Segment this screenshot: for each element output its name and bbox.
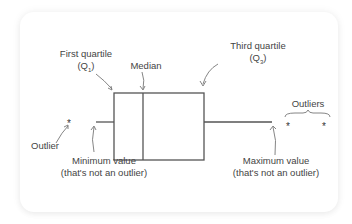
outliers-label: Outliers bbox=[288, 98, 328, 110]
third-quartile-title: Third quartile bbox=[226, 40, 290, 52]
minimum-value-note: (that's not an outlier) bbox=[56, 167, 152, 179]
outlier-marker: * bbox=[67, 118, 71, 129]
outlier-marker: * bbox=[286, 121, 290, 132]
third-quartile-label: Third quartile (Q3) bbox=[226, 40, 290, 68]
maximum-value-title: Maximum value bbox=[228, 155, 324, 167]
minimum-value-title: Minimum value bbox=[56, 155, 152, 167]
box-plot-diagram: * * * bbox=[0, 0, 352, 224]
minimum-value-label: Minimum value (that's not an outlier) bbox=[56, 155, 152, 179]
outlier-label: Outlier bbox=[28, 140, 62, 152]
first-quartile-symbol: (Q1) bbox=[58, 60, 114, 76]
maximum-value-note: (that's not an outlier) bbox=[228, 167, 324, 179]
first-quartile-title: First quartile bbox=[58, 48, 114, 60]
third-quartile-symbol: (Q3) bbox=[226, 52, 290, 68]
maximum-value-label: Maximum value (that's not an outlier) bbox=[228, 155, 324, 179]
outlier-marker: * bbox=[322, 121, 326, 132]
median-label: Median bbox=[124, 60, 168, 72]
first-quartile-label: First quartile (Q1) bbox=[58, 48, 114, 76]
iqr-box bbox=[114, 93, 204, 160]
